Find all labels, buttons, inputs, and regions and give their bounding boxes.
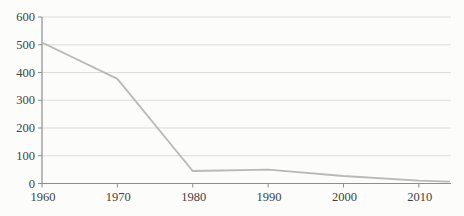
y-tick-label: 400	[16, 66, 35, 80]
y-tick-label: 200	[16, 121, 35, 135]
x-tick-label: 1980	[181, 190, 206, 204]
x-tick-label: 2010	[407, 190, 432, 204]
line-chart: 0100200300400500600196019701980199020002…	[0, 0, 464, 216]
y-tick-label: 600	[16, 10, 35, 24]
x-tick-label: 1990	[257, 190, 282, 204]
y-tick-label: 500	[16, 38, 35, 52]
x-tick-label: 1960	[31, 190, 56, 204]
y-tick-label: 100	[16, 149, 35, 163]
x-tick-label: 1970	[106, 190, 131, 204]
chart-figure: 0100200300400500600196019701980199020002…	[0, 0, 464, 216]
y-tick-label: 300	[16, 93, 35, 107]
y-tick-label: 0	[29, 177, 35, 191]
data-line	[42, 43, 449, 182]
x-tick-label: 2000	[332, 190, 357, 204]
